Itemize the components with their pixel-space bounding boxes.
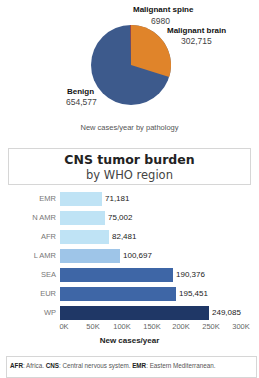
bar-l-amr bbox=[60, 249, 120, 263]
bar-eur bbox=[60, 287, 176, 301]
bar-n-amr bbox=[60, 211, 105, 225]
pathology-pie-chart bbox=[90, 24, 172, 106]
pie-label-malignant-spine: Malignant spine bbox=[133, 5, 193, 14]
x-tick: 50K bbox=[86, 322, 99, 331]
bar-label: EMR bbox=[39, 194, 56, 203]
bar-value: 75,002 bbox=[108, 213, 132, 222]
x-tick: 100K bbox=[113, 322, 131, 331]
bar-chart-subtitle: by WHO region bbox=[9, 168, 250, 182]
bar-label: AFR bbox=[41, 232, 56, 241]
bar-row-eur: EUR 195,451 bbox=[0, 287, 259, 301]
x-tick: 200K bbox=[172, 322, 190, 331]
footnote-text: : Africa. bbox=[23, 362, 46, 369]
x-tick: 250K bbox=[202, 322, 220, 331]
bar-row-emr: EMR 71,181 bbox=[0, 192, 259, 206]
bar-label: L AMR bbox=[34, 251, 56, 260]
bar-value: 100,697 bbox=[123, 251, 152, 260]
bar-chart-title: CNS tumor burden bbox=[9, 152, 250, 167]
footnote-abbr: CNS bbox=[46, 362, 59, 369]
bar-label: N AMR bbox=[32, 213, 56, 222]
bar-label: SEA bbox=[41, 270, 56, 279]
bar-value: 71,181 bbox=[105, 194, 129, 203]
x-tick: 150K bbox=[143, 322, 161, 331]
footnote-abbr: AFR bbox=[10, 362, 23, 369]
bar-value: 190,376 bbox=[176, 270, 205, 279]
bar-afr bbox=[60, 230, 109, 244]
bar-wp bbox=[60, 306, 209, 320]
bar-row-l-amr: L AMR 100,697 bbox=[0, 249, 259, 263]
bar-label: WP bbox=[44, 308, 56, 317]
footnote-text: : Eastern Mediterranean. bbox=[146, 362, 215, 369]
footnote-abbr: EMR bbox=[132, 362, 146, 369]
bar-row-afr: AFR 82,481 bbox=[0, 230, 259, 244]
pie-label-malignant-brain: Malignant brain bbox=[167, 26, 226, 35]
pie-value-malignant-spine: 6980 bbox=[151, 16, 170, 26]
x-tick: 300K bbox=[232, 322, 250, 331]
bar-value: 195,451 bbox=[179, 289, 208, 298]
pie-value-malignant-brain: 302,715 bbox=[181, 36, 212, 46]
x-tick: 0K bbox=[59, 322, 68, 331]
bar-row-wp: WP 249,085 bbox=[0, 306, 259, 320]
bar-value: 82,481 bbox=[112, 232, 136, 241]
bar-chart-title-box: CNS tumor burden by WHO region bbox=[8, 148, 251, 185]
bar-label: EUR bbox=[40, 289, 56, 298]
bar-emr bbox=[60, 192, 102, 206]
bar-sea bbox=[60, 268, 173, 282]
pie-caption: New cases/year by pathology bbox=[0, 123, 259, 132]
bar-row-n-amr: N AMR 75,002 bbox=[0, 211, 259, 225]
bar-row-sea: SEA 190,376 bbox=[0, 268, 259, 282]
footnote-text: : Central nervous system. bbox=[59, 362, 132, 369]
bar-value: 249,085 bbox=[212, 308, 241, 317]
footnote-box: AFR: Africa. CNS: Central nervous system… bbox=[6, 356, 257, 378]
pie-value-benign: 654,577 bbox=[66, 97, 97, 107]
x-axis-label: New cases/year bbox=[0, 336, 259, 345]
pie-label-benign: Benign bbox=[67, 87, 94, 96]
